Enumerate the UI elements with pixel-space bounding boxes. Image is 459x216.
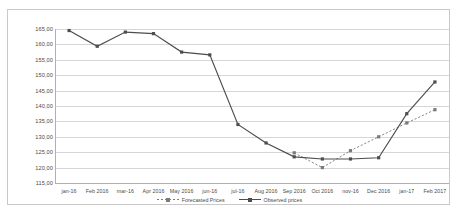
data-point-marker — [377, 156, 380, 159]
legend-key-icon — [157, 196, 179, 203]
chart-container: 165,00160,00155,00150,00145,00140,00135,… — [7, 9, 450, 205]
legend-item-forecasted-prices[interactable]: Forecasted Prices — [157, 196, 225, 203]
data-point-marker — [67, 29, 70, 32]
data-point-marker — [293, 155, 296, 158]
legend-label: Observed prices — [264, 197, 303, 203]
data-point-marker — [124, 30, 127, 33]
legend-label: Forecasted Prices — [182, 197, 225, 203]
data-point-marker — [321, 166, 324, 169]
legend-key-icon — [239, 196, 261, 203]
data-point-marker — [208, 53, 211, 56]
data-point-marker — [293, 151, 296, 154]
data-point-marker — [377, 135, 380, 138]
data-point-marker — [433, 80, 436, 83]
plot-area: 165,00160,00155,00150,00145,00140,00135,… — [8, 10, 451, 206]
chart-legend: Forecasted PricesObserved prices — [8, 196, 451, 203]
data-point-marker — [405, 112, 408, 115]
data-series-layer — [8, 10, 451, 206]
data-point-marker — [96, 45, 99, 48]
data-point-marker — [321, 157, 324, 160]
series-line-observed-prices — [69, 31, 435, 159]
data-point-marker — [349, 157, 352, 160]
data-point-marker — [349, 149, 352, 152]
data-point-marker — [264, 141, 267, 144]
data-point-marker — [433, 108, 436, 111]
legend-item-observed-prices[interactable]: Observed prices — [239, 196, 303, 203]
data-point-marker — [236, 123, 239, 126]
data-point-marker — [405, 121, 408, 124]
data-point-marker — [180, 51, 183, 54]
data-point-marker — [152, 32, 155, 35]
